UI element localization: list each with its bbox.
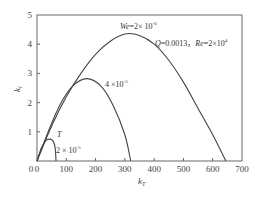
y-axis-ticks: 123450 (28, 10, 41, 174)
curve-line (37, 139, 56, 161)
y-tick-label: 2 (28, 98, 33, 108)
label-low-curve: 2 × 10-5 (56, 145, 81, 155)
y-tick-label: 5 (28, 10, 33, 20)
label-we-curve: We=2× 10-6 (120, 21, 157, 31)
y-tick-label: 4 (28, 39, 33, 49)
y-tick-label: 3 (28, 68, 33, 78)
x-tick-label: 100 (60, 164, 74, 174)
plot-frame (37, 15, 242, 161)
y-tick-label: 1 (28, 127, 33, 137)
label-mid-curve: 4 ×10-5 (105, 79, 128, 89)
label-params: Q=0.0013，Re=2×104 (155, 38, 228, 48)
curves (37, 34, 226, 161)
curve-line (37, 34, 226, 161)
x-tick-label: 0 (35, 164, 40, 174)
y-axis-label: ki (12, 86, 23, 92)
x-tick-label: 500 (177, 164, 191, 174)
curve-line (37, 79, 131, 161)
x-tick-label: 700 (235, 164, 249, 174)
x-tick-label: 400 (147, 164, 161, 174)
label-t: T (57, 130, 62, 139)
x-axis-label: kT (138, 176, 146, 187)
chart: 0100200300400500600700 123450 ki kT We=2… (0, 0, 260, 198)
x-tick-label: 300 (118, 164, 132, 174)
x-tick-label: 200 (89, 164, 103, 174)
x-tick-label: 600 (206, 164, 220, 174)
origin-label: 0 (29, 164, 34, 174)
x-axis-ticks: 0100200300400500600700 (35, 158, 250, 174)
